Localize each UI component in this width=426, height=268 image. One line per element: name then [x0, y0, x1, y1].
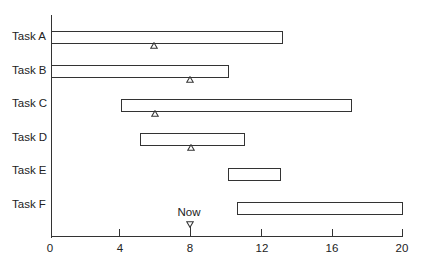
x-tick: [261, 229, 262, 237]
task-label-b: Task B: [12, 64, 47, 76]
x-tick-label: 8: [187, 242, 193, 254]
task-label-a: Task A: [12, 30, 46, 42]
x-axis: [51, 236, 403, 237]
x-tick: [332, 229, 333, 237]
x-tick: [119, 229, 120, 237]
task-label-d: Task D: [12, 131, 47, 143]
task-label-c: Task C: [12, 97, 47, 109]
task-bar-f: [237, 202, 403, 215]
x-tick-label: 16: [326, 242, 339, 254]
task-bar-e: [228, 168, 281, 181]
x-tick-label: 0: [47, 242, 53, 254]
now-label: Now: [177, 206, 200, 218]
task-label-e: Task E: [12, 164, 47, 176]
y-axis: [51, 15, 52, 238]
x-tick: [402, 229, 403, 237]
x-tick-label: 4: [117, 242, 123, 254]
x-tick-label: 20: [396, 242, 409, 254]
task-label-f: Task F: [12, 198, 46, 210]
now-line: [190, 227, 191, 236]
task-bar-a: [51, 31, 283, 44]
task-bar-b: [51, 65, 229, 78]
gantt-chart: Task A Task B Task C Task D Task E Task …: [0, 0, 426, 268]
x-tick-label: 12: [256, 242, 269, 254]
